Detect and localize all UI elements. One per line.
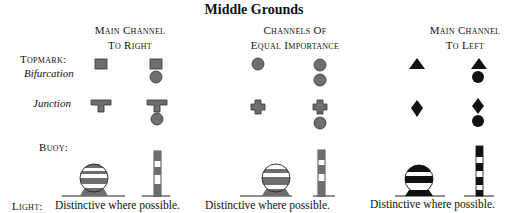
- diamond-over-circle-icon: [472, 98, 484, 127]
- column-left-symbols: [0, 0, 508, 213]
- light-text-right: Distinctive where possible.: [55, 199, 180, 211]
- spar-buoy-icon: [464, 146, 494, 196]
- triangle-over-circle-icon: [471, 58, 487, 83]
- triangle-icon: [409, 58, 425, 69]
- light-text-left: Distinctive where possible.: [370, 198, 495, 210]
- spherical-buoy-icon: [395, 164, 445, 196]
- diamond-icon: [411, 100, 423, 117]
- light-text-equal: Distinctive where possible.: [205, 199, 330, 211]
